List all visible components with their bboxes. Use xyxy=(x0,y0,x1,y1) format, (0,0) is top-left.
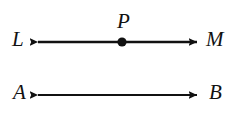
label-point-a: A xyxy=(13,82,26,103)
line-lm-group xyxy=(38,37,197,46)
label-point-b: B xyxy=(209,82,222,103)
label-point-l: L xyxy=(12,29,24,50)
label-point-p: P xyxy=(117,11,130,32)
point-p-dot xyxy=(117,37,126,46)
label-point-m: M xyxy=(206,29,224,50)
geometry-figure: L M P A B xyxy=(0,0,245,127)
